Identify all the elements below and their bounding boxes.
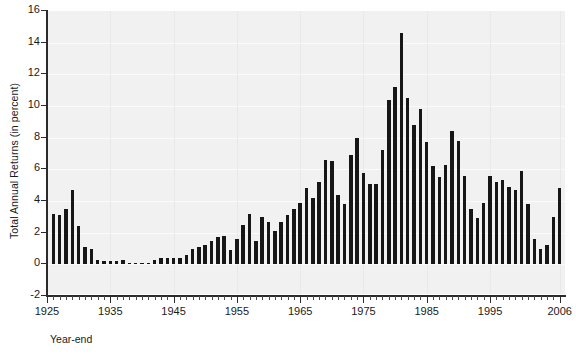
bar	[457, 141, 460, 265]
y-tick-label: 8	[34, 131, 40, 142]
bar	[134, 263, 137, 264]
bar	[400, 33, 403, 264]
x-tick-minor	[541, 296, 542, 300]
x-axis-title: Year-end	[50, 333, 92, 345]
bar	[121, 260, 124, 265]
x-tick-major	[427, 296, 428, 303]
x-tick-minor	[79, 296, 80, 300]
x-tick-major	[237, 296, 238, 303]
bar	[241, 225, 244, 265]
bar	[90, 249, 93, 265]
bar	[336, 195, 339, 265]
y-tick-mark	[41, 232, 47, 233]
bar	[311, 198, 314, 265]
x-tick-minor	[395, 296, 396, 300]
bar	[406, 98, 409, 264]
x-tick-minor	[117, 296, 118, 300]
x-tick-minor	[401, 296, 402, 300]
bar	[552, 217, 555, 265]
bar	[178, 258, 181, 264]
bar	[77, 226, 80, 264]
x-tick-minor	[53, 296, 54, 300]
x-tick-label: 1955	[215, 305, 259, 317]
bar	[412, 125, 415, 264]
bar	[229, 250, 232, 264]
bar	[349, 155, 352, 264]
x-tick-minor	[477, 296, 478, 300]
x-tick-minor	[180, 296, 181, 300]
bar	[115, 261, 118, 264]
x-tick-minor	[123, 296, 124, 300]
bar	[355, 138, 358, 265]
x-tick-minor	[496, 296, 497, 300]
y-tick-mark	[41, 168, 47, 169]
x-tick-label: 1925	[25, 305, 69, 317]
x-tick-minor	[281, 296, 282, 300]
x-tick-minor	[484, 296, 485, 300]
x-tick-minor	[243, 296, 244, 300]
x-tick-minor	[420, 296, 421, 300]
x-tick-minor	[167, 296, 168, 300]
x-tick-minor	[205, 296, 206, 300]
x-tick-minor	[129, 296, 130, 300]
bar	[533, 239, 536, 264]
bar	[273, 231, 276, 264]
x-tick-label: 2006	[538, 305, 576, 317]
x-tick-minor	[91, 296, 92, 300]
x-tick-minor	[452, 296, 453, 300]
x-tick-minor	[155, 296, 156, 300]
y-tick-label: 2	[34, 226, 40, 237]
y-tick-mark	[41, 42, 47, 43]
x-tick-minor	[503, 296, 504, 300]
x-tick-minor	[307, 296, 308, 300]
x-tick-minor	[104, 296, 105, 300]
y-tick-mark	[41, 295, 47, 296]
y-tick-mark	[41, 10, 47, 11]
x-tick-minor	[142, 296, 143, 300]
y-tick-label: -2	[30, 289, 40, 300]
bar	[298, 203, 301, 265]
x-tick-minor	[199, 296, 200, 300]
x-tick-minor	[319, 296, 320, 300]
bar	[368, 184, 371, 265]
x-tick-minor	[357, 296, 358, 300]
y-tick-mark	[41, 105, 47, 106]
x-tick-label: 1945	[152, 305, 196, 317]
x-tick-minor	[262, 296, 263, 300]
y-axis-line	[46, 10, 48, 296]
x-tick-minor	[325, 296, 326, 300]
x-tick-label: 1975	[341, 305, 385, 317]
bar	[425, 142, 428, 264]
bar	[438, 177, 441, 264]
x-tick-minor	[212, 296, 213, 300]
y-tick-mark	[41, 200, 47, 201]
x-tick-minor	[471, 296, 472, 300]
bar	[520, 171, 523, 264]
x-tick-minor	[72, 296, 73, 300]
bar	[159, 258, 162, 264]
x-tick-minor	[313, 296, 314, 300]
bar-series	[47, 11, 565, 294]
y-tick-label: 6	[34, 162, 40, 173]
x-tick-minor	[250, 296, 251, 300]
x-tick-minor	[294, 296, 295, 300]
y-tick-label: 14	[28, 36, 40, 47]
x-tick-minor	[414, 296, 415, 300]
bar	[362, 173, 365, 265]
bar	[330, 161, 333, 264]
x-tick-minor	[439, 296, 440, 300]
y-tick-mark	[41, 137, 47, 138]
x-tick-minor	[66, 296, 67, 300]
x-tick-major	[47, 296, 48, 303]
bar	[172, 258, 175, 264]
x-tick-minor	[344, 296, 345, 300]
x-tick-label: 1965	[278, 305, 322, 317]
bar	[393, 87, 396, 264]
bar	[71, 190, 74, 264]
bar	[248, 214, 251, 265]
x-tick-minor	[218, 296, 219, 300]
bar	[444, 165, 447, 265]
x-tick-minor	[522, 296, 523, 300]
x-tick-minor	[98, 296, 99, 300]
x-tick-minor	[458, 296, 459, 300]
